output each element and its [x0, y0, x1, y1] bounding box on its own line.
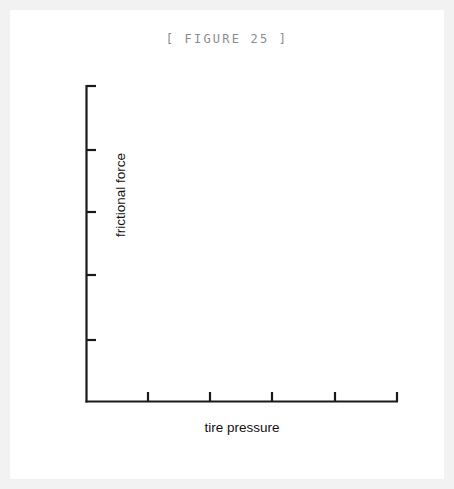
axes-svg	[10, 10, 444, 479]
plot-area: frictional force tire pressure	[10, 10, 444, 479]
y-axis-label: frictional force	[112, 125, 130, 265]
figure-card: [ FIGURE 25 ] frictional force tire pres…	[10, 10, 444, 479]
x-axis-label: tire pressure	[86, 420, 398, 435]
